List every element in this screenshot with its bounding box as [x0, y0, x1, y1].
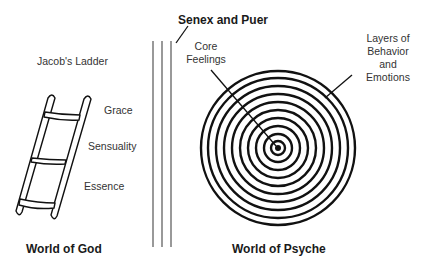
core-label-line2: Feelings	[180, 53, 232, 66]
world-of-psyche-heading: World of Psyche	[232, 243, 326, 256]
layers-label: Layers of Behavior and Emotions	[358, 32, 418, 84]
layers-pointer-line	[325, 75, 352, 98]
rung-label-sensuality: Sensuality	[88, 140, 136, 153]
diagram-title: Senex and Puer	[178, 14, 268, 27]
layers-label-line2: Behavior	[358, 45, 418, 58]
layers-label-line1: Layers of	[358, 32, 418, 45]
core-feelings-label: Core Feelings	[180, 40, 232, 66]
core-label-line1: Core	[180, 40, 232, 53]
ladder-title: Jacob's Ladder	[37, 55, 108, 68]
world-of-god-heading: World of God	[26, 243, 102, 256]
layers-label-line4: Emotions	[358, 71, 418, 84]
ladder-icon	[16, 95, 91, 219]
divider-lines	[153, 41, 171, 247]
rung-label-essence: Essence	[84, 180, 124, 193]
rung-label-grace: Grace	[104, 104, 133, 117]
layers-label-line3: and	[358, 58, 418, 71]
